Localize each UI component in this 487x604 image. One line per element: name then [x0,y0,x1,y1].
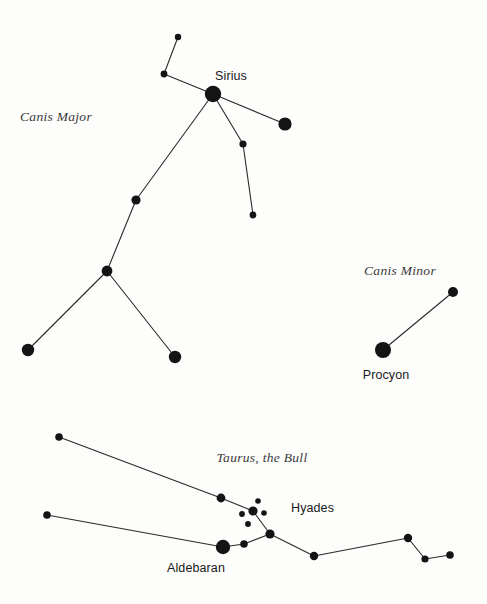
star-marker-taurus-the-bull[interactable] [55,433,63,441]
star-marker-taurus-the-bull[interactable] [446,551,454,559]
constellation-line-canis-major [107,200,136,271]
constellation-line-canis-major [136,94,213,200]
star-marker-canis-major[interactable] [102,266,113,277]
star-marker-canis-minor[interactable] [448,287,458,297]
star-marker-taurus-the-bull[interactable] [310,552,318,560]
star-marker-canis-major[interactable] [175,34,181,40]
constellation-label-taurus-the-bull: Taurus, the Bull [217,450,308,465]
constellation-line-canis-major [107,271,175,357]
star-label-procyon: Procyon [363,368,410,382]
star-marker-canis-major[interactable] [169,351,181,363]
star-label-sirius: Sirius [215,69,247,83]
star-marker-canis-major[interactable] [278,117,291,130]
constellation-line-canis-minor [383,292,453,350]
star-marker-taurus-the-bull[interactable] [245,521,251,527]
star-marker-canis-major[interactable] [239,140,246,147]
star-marker-canis-major[interactable] [161,71,168,78]
star-marker-taurus-the-bull[interactable] [240,540,248,548]
star-chart: SiriusCanis MajorProcyonCanis MinorAldeb… [0,0,487,604]
star-marker-taurus-the-bull[interactable] [404,534,412,542]
constellation-label-canis-minor: Canis Minor [364,263,436,278]
star-label-aldebaran: Aldebaran [167,561,225,575]
star-marker-canis-major[interactable] [131,195,140,204]
constellation-label-canis-major: Canis Major [20,109,92,124]
constellation-line-taurus-the-bull [221,498,253,511]
star-marker-taurus-the-bull[interactable] [248,506,257,515]
star-sirius[interactable] [205,86,221,102]
sky-map: SiriusCanis MajorProcyonCanis MinorAldeb… [0,0,487,604]
constellation-line-taurus-the-bull [47,515,223,547]
constellation-line-canis-major [243,144,253,215]
constellation-line-taurus-the-bull [59,437,221,498]
star-marker-taurus-the-bull[interactable] [261,510,267,516]
star-marker-taurus-the-bull[interactable] [43,511,51,519]
cluster-label-hyades: Hyades [291,501,334,515]
constellation-line-canis-major [213,94,243,144]
star-marker-taurus-the-bull[interactable] [239,511,245,517]
star-marker-taurus-the-bull[interactable] [255,498,261,504]
star-marker-taurus-the-bull[interactable] [421,555,428,562]
constellation-line-taurus-the-bull [270,534,314,556]
constellation-line-canis-major [213,94,285,124]
star-aldebaran[interactable] [216,540,230,554]
labels-layer: SiriusCanis MajorProcyonCanis MinorAldeb… [20,69,436,575]
star-marker-taurus-the-bull[interactable] [265,529,274,538]
constellation-line-canis-major [164,37,178,74]
star-marker-canis-major[interactable] [22,344,34,356]
constellation-line-canis-major [28,271,107,350]
constellation-line-taurus-the-bull [314,538,408,556]
star-procyon[interactable] [375,342,391,358]
star-marker-canis-major[interactable] [250,212,257,219]
star-marker-taurus-the-bull[interactable] [217,494,226,503]
